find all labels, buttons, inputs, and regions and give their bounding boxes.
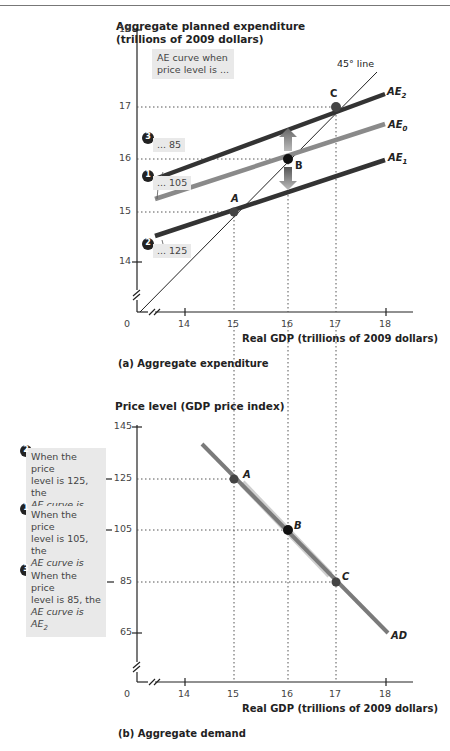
xtick-b-18: 18 [379, 688, 391, 699]
point-c-label: C [330, 88, 337, 99]
ytick-65: 65 [112, 626, 132, 637]
point-a-ad [230, 475, 239, 484]
panel-b-axes [105, 425, 413, 686]
panel-b-ylabel: Price level (GDP price index) [115, 400, 284, 413]
ytick-18: 18 [117, 23, 131, 34]
ae2-label: AE2 [387, 86, 406, 100]
line-45-label: 45° line [337, 58, 374, 69]
xtick-b-16: 16 [281, 688, 293, 699]
xtick-17: 17 [329, 318, 341, 329]
xtick-15: 15 [227, 318, 239, 329]
ae1-curve [155, 160, 385, 236]
ad-label: AD [391, 630, 407, 641]
badge-1-icon: 1 [144, 170, 152, 179]
point-b [283, 154, 293, 164]
ytick-17: 17 [117, 100, 131, 111]
point-b-label: B [295, 160, 303, 171]
xtick-b-15: 15 [227, 688, 239, 699]
point-a-ad-label: A [243, 469, 251, 480]
xtick-b-0: 0 [124, 688, 130, 699]
panel-a-caption: (a) Aggregate expenditure [118, 358, 269, 369]
panel-b-xlabel: Real GDP (trillions of 2009 dollars) [242, 703, 438, 714]
point-c-ad-label: C [342, 571, 349, 582]
badge-2-icon: 2 [144, 238, 152, 247]
badge-1-b-icon: 1 [22, 503, 30, 512]
ytick-125: 125 [112, 472, 132, 483]
xtick-18: 18 [379, 318, 391, 329]
point-a [230, 208, 239, 217]
xtick-14: 14 [178, 318, 190, 329]
callout-85: ... 85 [153, 138, 185, 152]
xtick-16: 16 [281, 318, 293, 329]
panel-a-xlabel: Real GDP (trillions of 2009 dollars) [242, 333, 438, 344]
badge-3-icon: 3 [144, 132, 152, 141]
ad-curve [202, 444, 388, 633]
panel-b-guides [137, 479, 336, 582]
xtick-b-14: 14 [178, 688, 190, 699]
point-b-ad-label: B [294, 520, 302, 531]
callout-105: ... 105 [153, 176, 191, 190]
xtick-0: 0 [124, 318, 130, 329]
ytick-85: 85 [112, 575, 132, 586]
ae1-label: AE1 [388, 152, 407, 166]
point-b-ad [283, 525, 293, 535]
panel-a-ylabel: Aggregate planned expenditure (trillions… [116, 20, 305, 46]
point-a-label: A [231, 193, 239, 204]
callout-125: ... 125 [153, 244, 191, 258]
badge-3-b-icon: 3 [22, 564, 30, 573]
ytick-16: 16 [117, 152, 131, 163]
legend-note: AE curve when price level is ... [152, 49, 234, 79]
panel-b-caption: (b) Aggregate demand [118, 728, 246, 739]
ytick-15: 15 [117, 205, 131, 216]
ytick-105: 105 [112, 523, 132, 534]
ae0-label: AE0 [388, 119, 407, 133]
ytick-145: 145 [112, 420, 132, 431]
chart-canvas [0, 0, 450, 751]
point-c-ad [332, 578, 341, 587]
xtick-b-17: 17 [329, 688, 341, 699]
note-price-85: When the price level is 85, the AE curve… [26, 567, 106, 637]
badge-2-b-icon: 2 [22, 445, 30, 454]
point-c [331, 102, 341, 112]
ytick-14: 14 [117, 255, 131, 266]
